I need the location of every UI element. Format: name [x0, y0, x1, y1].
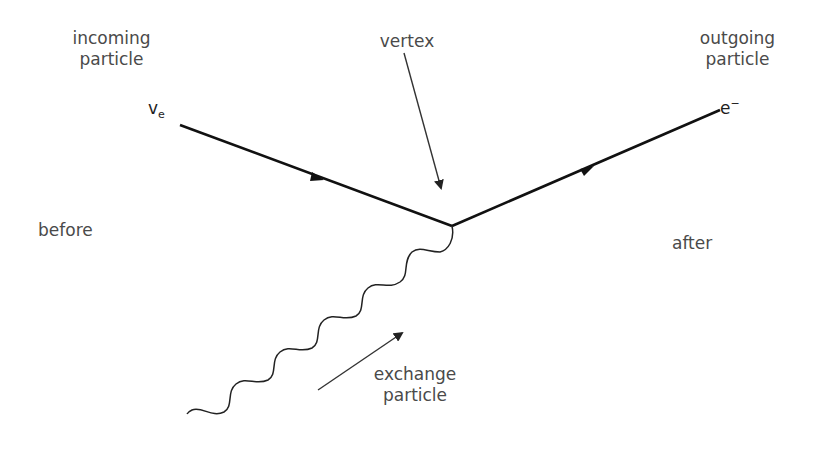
feynman-diagram: incoming particle vertex outgoing partic… [0, 0, 814, 450]
incoming-label-line1: incoming [64, 28, 159, 49]
outgoing-label-line2: particle [690, 49, 785, 70]
exchange-particle-label: exchange particle [365, 364, 465, 406]
outgoing-particle-label: outgoing particle [690, 28, 785, 70]
outgoing-label-line1: outgoing [690, 28, 785, 49]
electron-symbol: e− [720, 97, 740, 118]
incoming-particle-line [180, 125, 452, 226]
vertex-label: vertex [372, 31, 442, 52]
neutrino-base: v [148, 98, 158, 118]
neutrino-symbol: ve [148, 98, 165, 121]
vertex-pointer-arrow [404, 53, 441, 188]
before-label: before [38, 220, 93, 241]
electron-superscript: − [730, 97, 739, 110]
after-label: after [672, 233, 712, 254]
electron-base: e [720, 98, 730, 118]
exchange-label-line1: exchange [365, 364, 465, 385]
direction-arrow-icon [580, 166, 594, 176]
outgoing-particle-line [452, 110, 720, 226]
incoming-particle-label: incoming particle [64, 28, 159, 70]
exchange-label-line2: particle [365, 385, 465, 406]
neutrino-subscript: e [158, 108, 165, 121]
incoming-label-line2: particle [64, 49, 159, 70]
